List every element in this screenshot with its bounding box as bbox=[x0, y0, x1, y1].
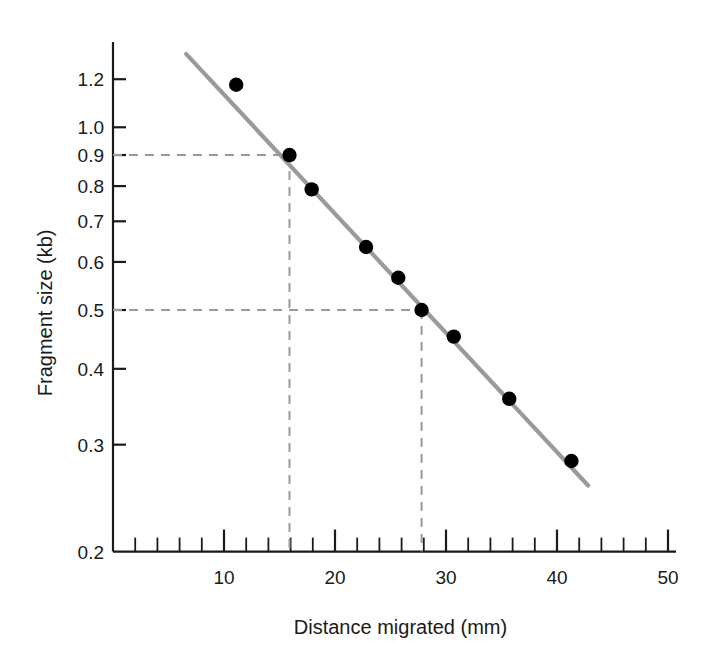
y-tick-label-0.9: 0.9 bbox=[78, 145, 104, 166]
y-tick-label-0.8: 0.8 bbox=[78, 176, 104, 197]
y-tick-label-1.0: 1.0 bbox=[78, 117, 104, 138]
y-axis-title: Fragment size (kb) bbox=[34, 229, 56, 396]
chart-figure: 0.20.30.40.50.60.70.80.91.01.21020304050… bbox=[0, 0, 715, 663]
y-tick-label-0.7: 0.7 bbox=[78, 211, 104, 232]
data-point-6 bbox=[447, 329, 461, 343]
y-tick-label-1.2: 1.2 bbox=[78, 69, 104, 90]
y-tick-label-0.5: 0.5 bbox=[78, 300, 104, 321]
y-tick-label-0.2: 0.2 bbox=[78, 542, 104, 563]
x-tick-label-50: 50 bbox=[657, 567, 678, 588]
y-tick-label-0.6: 0.6 bbox=[78, 252, 104, 273]
x-tick-label-40: 40 bbox=[546, 567, 567, 588]
y-tick-label-0.3: 0.3 bbox=[78, 435, 104, 456]
data-point-3 bbox=[359, 240, 373, 254]
data-point-8 bbox=[564, 454, 578, 468]
x-tick-label-20: 20 bbox=[324, 567, 345, 588]
data-point-7 bbox=[502, 392, 516, 406]
regression-line bbox=[186, 54, 588, 485]
data-point-1 bbox=[282, 148, 296, 162]
x-tick-label-30: 30 bbox=[435, 567, 456, 588]
data-point-0 bbox=[229, 78, 243, 92]
x-axis-title: Distance migrated (mm) bbox=[294, 616, 507, 638]
scatter-plot-svg: 0.20.30.40.50.60.70.80.91.01.21020304050… bbox=[0, 0, 715, 663]
data-point-5 bbox=[414, 303, 428, 317]
x-tick-label-10: 10 bbox=[213, 567, 234, 588]
y-tick-label-0.4: 0.4 bbox=[78, 359, 105, 380]
data-point-4 bbox=[391, 271, 405, 285]
data-point-2 bbox=[304, 182, 318, 196]
